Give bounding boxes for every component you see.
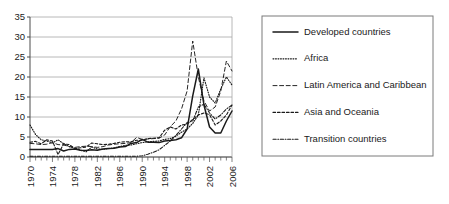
y-axis-tick-label: 20 xyxy=(14,71,25,82)
y-axis-tick-label: 10 xyxy=(14,111,25,122)
y-axis-tick-label: 0 xyxy=(20,151,25,162)
legend-label-asia-and-oceania: Asia and Oceania xyxy=(304,106,380,117)
chart-legend: Developed countriesAfricaLatin America a… xyxy=(262,16,433,156)
legend-label-transition-countries: Transition countries xyxy=(304,133,387,144)
y-axis-tick-labels: 05101520253035 xyxy=(14,11,25,162)
x-axis-tick-label: 1994 xyxy=(159,166,170,187)
y-axis-tick-label: 25 xyxy=(14,51,25,62)
y-axis-tick-label: 35 xyxy=(14,11,25,22)
line-chart: 05101520253035 1970197419781982198619901… xyxy=(0,0,449,204)
y-axis-tick-label: 15 xyxy=(14,91,25,102)
x-axis-tick-marks xyxy=(30,157,232,162)
x-axis-tick-labels: 1970197419781982198619901994199820022006 xyxy=(25,166,238,187)
x-axis-tick-label: 1982 xyxy=(92,166,103,187)
legend-label-latin-america-and-caribbean: Latin America and Caribbean xyxy=(304,79,427,90)
legend-label-developed-countries: Developed countries xyxy=(304,26,391,37)
x-axis-tick-label: 1998 xyxy=(182,166,193,187)
legend-label-africa: Africa xyxy=(304,52,329,63)
chart-figure: 05101520253035 1970197419781982198619901… xyxy=(0,0,449,204)
x-axis-tick-label: 1986 xyxy=(114,166,125,187)
x-axis-tick-label: 1990 xyxy=(137,166,148,187)
series-line-developed-countries xyxy=(30,69,232,151)
y-axis-tick-label: 30 xyxy=(14,31,25,42)
x-axis-tick-label: 1978 xyxy=(69,166,80,187)
series-line-asia-and-oceania xyxy=(30,105,232,155)
x-axis-tick-label: 2002 xyxy=(204,166,215,187)
data-series-group xyxy=(30,41,232,156)
x-axis-tick-label: 1974 xyxy=(47,166,58,187)
y-axis-tick-label: 5 xyxy=(20,131,25,142)
x-axis-tick-label: 2006 xyxy=(227,166,238,187)
series-line-transition-countries xyxy=(30,104,232,156)
x-axis-tick-label: 1970 xyxy=(25,166,36,187)
